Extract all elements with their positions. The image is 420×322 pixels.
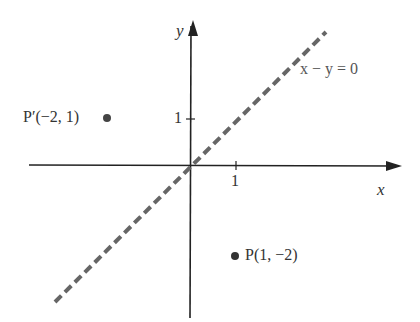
point-p: [231, 252, 239, 260]
x-tick-label: 1: [231, 172, 239, 190]
coordinate-plane: [0, 0, 420, 322]
y-axis-label: y: [176, 21, 184, 41]
x-axis-label: x: [377, 180, 385, 200]
point-p-prime: [103, 114, 111, 122]
x-axis: [29, 165, 396, 166]
y-axis: [190, 26, 191, 318]
y-tick-label: 1: [174, 109, 182, 127]
x-axis-arrow-icon: [386, 161, 402, 171]
point-p-prime-label: P′(−2, 1): [23, 108, 79, 126]
point-p-label: P(1, −2): [245, 246, 298, 264]
line-equation-label: x − y = 0: [300, 60, 358, 78]
y-axis-arrow-icon: [188, 20, 198, 36]
